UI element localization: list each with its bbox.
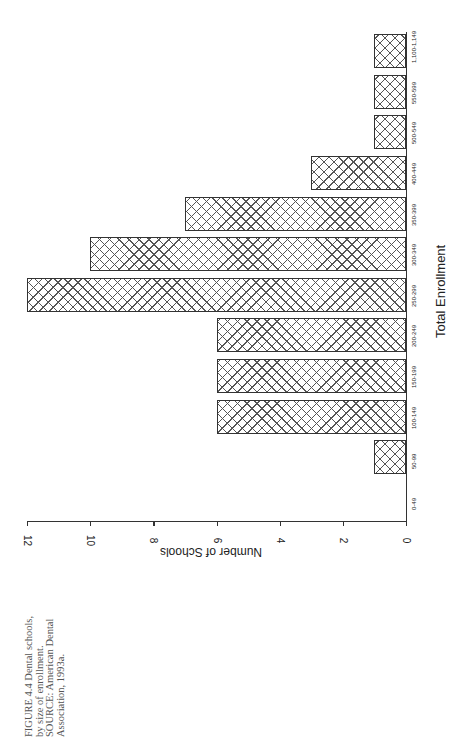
caption-line: Association, 1993a. <box>56 616 67 737</box>
value-axis-tick-label: 8 <box>148 531 159 551</box>
category-label: 300-349 <box>411 244 417 266</box>
category-label: 100-149 <box>411 406 417 428</box>
bar <box>311 156 406 190</box>
value-axis-tick <box>27 521 28 526</box>
category-label: 500-549 <box>411 122 417 144</box>
category-label: 550-599 <box>411 82 417 104</box>
value-axis-tick <box>153 521 154 526</box>
category-label: 0-49 <box>411 498 417 510</box>
category-label: 200-249 <box>411 325 417 347</box>
value-axis-tick-label: 12 <box>22 531 33 551</box>
caption-line: SOURCE: American Dental <box>45 616 56 737</box>
bar <box>374 115 406 149</box>
bar <box>374 75 406 109</box>
value-axis-tick-label: 4 <box>274 531 285 551</box>
figure-caption: FIGURE 4.4 Dental schools, by size of en… <box>24 616 66 737</box>
bar <box>217 359 407 393</box>
bar <box>217 400 407 434</box>
bar <box>27 278 406 312</box>
value-axis-tick <box>90 521 91 526</box>
value-axis-tick-label: 0 <box>401 531 412 551</box>
bar <box>374 440 406 474</box>
category-label: 400-449 <box>411 163 417 185</box>
bar <box>217 318 407 352</box>
category-axis-line <box>406 32 407 522</box>
y-axis-title: Number of Schools <box>160 545 262 559</box>
category-label: 250-299 <box>411 285 417 307</box>
value-axis-tick <box>280 521 281 526</box>
value-axis-tick <box>406 521 407 526</box>
value-axis-tick <box>217 521 218 526</box>
value-axis-tick-label: 2 <box>337 531 348 551</box>
bar <box>185 197 406 231</box>
bar <box>90 237 406 271</box>
category-label: 350-399 <box>411 203 417 225</box>
category-label: 150-199 <box>411 366 417 388</box>
value-axis-tick-label: 10 <box>85 531 96 551</box>
x-axis-title: Total Enrollment <box>433 245 448 338</box>
category-label: 1,100-1,149 <box>411 31 417 63</box>
caption-line: FIGURE 4.4 Dental schools, <box>24 616 35 737</box>
value-axis-tick <box>343 521 344 526</box>
bar <box>374 34 406 68</box>
category-label: 50-99 <box>411 454 417 469</box>
